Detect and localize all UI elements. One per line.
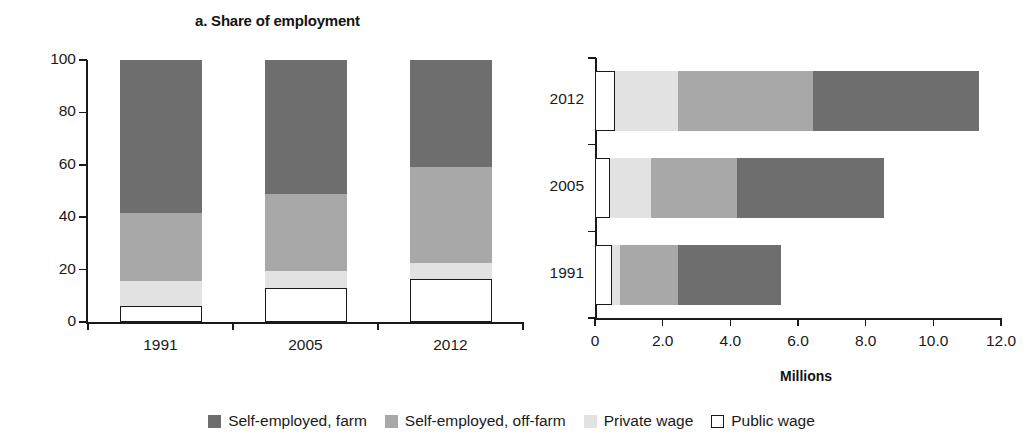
legend-swatch-offfarm-icon bbox=[385, 415, 398, 428]
panel-a-y-tick-label: 0 bbox=[14, 312, 76, 330]
panel-b-y-tick-labels: 201220051991 bbox=[520, 0, 584, 400]
panel-a-segment-1991-offfarm bbox=[120, 213, 202, 281]
legend-item-private[interactable]: Private wage bbox=[584, 412, 694, 430]
panel-b-segment-2012-public bbox=[595, 71, 615, 131]
panel-a-x-axis-line bbox=[86, 322, 523, 324]
panel-a-segment-2005-offfarm bbox=[265, 194, 347, 271]
panel-b-x-tick bbox=[594, 318, 596, 326]
panel-b-segment-1991-offfarm bbox=[620, 245, 678, 305]
legend-item-public[interactable]: Public wage bbox=[711, 412, 815, 430]
panel-b-segment-2005-offfarm bbox=[651, 158, 737, 218]
panel-b-total-employment: b. Total employment, millions Millions 0… bbox=[520, 0, 1023, 400]
panel-a-y-tick bbox=[79, 216, 87, 218]
panel-a-segment-2012-offfarm bbox=[410, 167, 492, 263]
panel-a-segment-2012-private bbox=[410, 263, 492, 279]
panel-b-bar-1991 bbox=[595, 245, 1001, 305]
panel-b-y-tick bbox=[588, 57, 596, 59]
panel-b-y-tick-label: 2005 bbox=[520, 177, 584, 195]
panel-a-segment-1991-farm bbox=[120, 60, 202, 213]
panel-b-y-tick-label: 1991 bbox=[520, 264, 584, 282]
panel-b-segment-2012-private bbox=[615, 71, 678, 131]
panel-a-y-tick bbox=[79, 321, 87, 323]
legend-label-farm: Self-employed, farm bbox=[228, 412, 367, 430]
panel-b-x-tick-label: 12.0 bbox=[951, 332, 1023, 350]
panel-a-y-tick-label: 20 bbox=[14, 260, 76, 278]
panel-b-x-axis-title: Millions bbox=[780, 368, 832, 384]
panel-b-x-tick bbox=[662, 318, 664, 326]
panel-b-segment-2005-private bbox=[610, 158, 651, 218]
panel-a-bar-2005 bbox=[265, 60, 347, 322]
legend-swatch-farm-icon bbox=[208, 415, 221, 428]
legend-item-farm[interactable]: Self-employed, farm bbox=[208, 412, 367, 430]
panel-b-y-tick bbox=[588, 144, 596, 146]
panel-a-bar-2012 bbox=[410, 60, 492, 322]
panel-b-bar-2005 bbox=[595, 158, 1001, 218]
panel-a-share-of-employment: a. Share of employment Percent 020406080… bbox=[0, 0, 520, 400]
panel-a-segment-1991-public bbox=[120, 306, 202, 322]
chart-legend: Self-employed, farmSelf-employed, off-fa… bbox=[0, 406, 1023, 436]
panel-a-segment-2012-public bbox=[410, 279, 492, 322]
panel-a-y-tick bbox=[79, 112, 87, 114]
panel-a-segment-2005-farm bbox=[265, 60, 347, 194]
panel-a-x-tick bbox=[87, 322, 89, 330]
legend-label-private: Private wage bbox=[604, 412, 694, 430]
panel-a-plot-area bbox=[88, 60, 523, 322]
legend-swatch-private-icon bbox=[584, 415, 597, 428]
panel-b-x-tick bbox=[730, 318, 732, 326]
panel-a-x-tick bbox=[232, 322, 234, 330]
panel-b-segment-1991-public bbox=[595, 245, 612, 305]
legend-swatch-public-icon bbox=[711, 415, 724, 428]
panel-b-segment-2012-farm bbox=[813, 71, 979, 131]
panel-a-y-tick bbox=[79, 269, 87, 271]
panel-a-segment-2005-private bbox=[265, 271, 347, 288]
panel-a-segment-2012-farm bbox=[410, 60, 492, 167]
panel-a-x-tick-label: 2005 bbox=[256, 336, 356, 354]
panel-a-title: a. Share of employment bbox=[195, 12, 360, 29]
panel-a-y-tick-label: 40 bbox=[14, 207, 76, 225]
panel-a-y-tick-label: 100 bbox=[14, 50, 76, 68]
panel-b-y-tick-label: 2012 bbox=[520, 90, 584, 108]
panel-a-y-tick-label: 60 bbox=[14, 155, 76, 173]
panel-b-x-tick bbox=[1000, 318, 1002, 326]
panel-a-x-tick bbox=[377, 322, 379, 330]
panel-b-x-tick bbox=[865, 318, 867, 326]
panel-a-y-tick bbox=[79, 164, 87, 166]
panel-a-x-tick-label: 2012 bbox=[401, 336, 501, 354]
panel-a-segment-2005-public bbox=[265, 288, 347, 322]
panel-b-segment-2012-offfarm bbox=[678, 71, 813, 131]
panel-b-segment-1991-private bbox=[612, 245, 620, 305]
panel-a-segment-1991-private bbox=[120, 281, 202, 306]
panel-b-bar-2012 bbox=[595, 71, 1001, 131]
panel-a-y-tick bbox=[79, 59, 87, 61]
panel-b-segment-2005-public bbox=[595, 158, 610, 218]
panel-b-segment-2005-farm bbox=[737, 158, 884, 218]
panel-a-y-tick-label: 80 bbox=[14, 102, 76, 120]
figure-root: a. Share of employment Percent 020406080… bbox=[0, 0, 1023, 439]
legend-label-offfarm: Self-employed, off-farm bbox=[405, 412, 566, 430]
panel-a-x-tick-label: 1991 bbox=[111, 336, 211, 354]
panel-a-bar-1991 bbox=[120, 60, 202, 322]
panel-b-y-tick bbox=[588, 231, 596, 233]
panel-a-y-tick-labels: 020406080100 bbox=[14, 0, 76, 400]
legend-item-offfarm[interactable]: Self-employed, off-farm bbox=[385, 412, 566, 430]
panel-b-y-tick bbox=[588, 317, 596, 319]
panel-b-x-tick bbox=[933, 318, 935, 326]
panel-b-segment-1991-farm bbox=[678, 245, 781, 305]
legend-label-public: Public wage bbox=[731, 412, 815, 430]
panel-b-x-tick bbox=[797, 318, 799, 326]
